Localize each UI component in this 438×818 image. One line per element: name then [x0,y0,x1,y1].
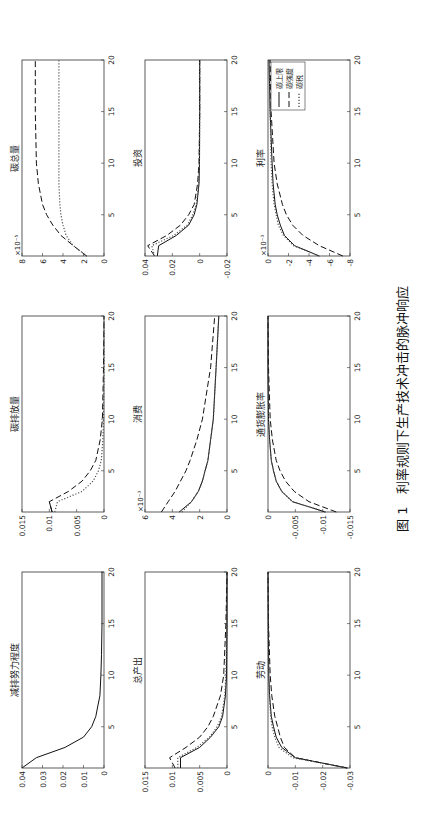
y-tick-label: 0 [264,259,273,264]
series-dotted [178,572,227,768]
x-tick-label: 15 [230,619,239,629]
panel-6: 投资-0.0200.020.045101520 [132,55,239,278]
x-tick-label: 20 [230,567,239,577]
y-tick-label: 6 [141,515,150,520]
plot-frame [145,60,227,256]
x-tick-label: 20 [230,311,239,321]
axis-multiplier: ×10⁻⁵ [14,235,22,256]
x-tick-label: 15 [230,363,239,373]
series-dotted [182,316,219,512]
series-dashed [148,60,200,256]
y-tick-label: -0.02 [223,259,232,279]
series-dashed [170,572,227,768]
y-tick-label: -4 [305,259,314,267]
y-tick-label: 0.005 [73,515,82,537]
plot-frame [22,316,104,512]
x-tick-label: 20 [353,567,362,577]
y-tick-label: 0.02 [168,259,177,276]
panel-1: 减排努力程度00.010.020.030.045101520 [9,567,116,788]
panel-title: 消费 [132,405,143,423]
x-tick-label: 20 [353,311,362,321]
x-tick-label: 10 [107,670,116,680]
y-tick-label: 0 [196,259,205,264]
y-tick-label: 0.03 [39,771,48,788]
y-tick-label: 0.015 [18,515,27,537]
x-tick-label: 5 [353,724,362,729]
panel-7: 劳动-0.03-0.02-0.0105101520 [255,567,362,790]
panel-3: 碳总量024685101520×10⁻⁵ [9,55,116,264]
panel-title: 碳总量 [9,145,20,172]
y-tick-label: 2 [196,515,205,520]
x-tick-label: 10 [353,158,362,168]
x-tick-label: 10 [230,670,239,680]
impulse-response-grid: 减排努力程度00.010.020.030.045101520碳排放量00.005… [0,0,380,818]
y-tick-label: -0.015 [346,515,355,539]
y-tick-label: 0.01 [168,771,177,788]
y-tick-label: 0.015 [141,771,150,793]
y-tick-label: 4 [59,259,68,264]
y-tick-label: 0 [223,515,232,520]
series-dashed [268,316,336,512]
plot-frame [145,316,227,512]
y-tick-label: -0.02 [319,771,328,791]
figure: 减排努力程度00.010.020.030.045101520碳排放量00.005… [0,0,438,818]
panel-title: 投资 [132,149,143,167]
series-dashed [49,316,104,512]
x-tick-label: 10 [230,158,239,168]
y-tick-label: -0.01 [319,515,328,535]
x-tick-label: 20 [353,55,362,65]
x-tick-label: 5 [107,724,116,729]
y-tick-label: 0 [100,515,109,520]
panel-9: 利率-8-6-4-205101520×10⁻³碳上限碳强度碳税 [255,55,362,266]
series-solid [268,316,325,512]
series-solid [22,572,102,768]
panel-title: 减排努力程度 [9,643,20,697]
panel-title: 总产出 [132,657,143,684]
x-tick-label: 20 [107,311,116,321]
y-tick-label: 0.04 [141,259,150,276]
series-dotted [59,60,87,256]
series-solid [181,572,228,768]
legend-label: 碳上限 [275,68,284,89]
caption-label: 图 1 [395,507,410,532]
x-tick-label: 15 [230,107,239,117]
x-tick-label: 10 [107,414,116,424]
y-tick-label: 0.04 [18,771,27,788]
x-tick-label: 5 [230,724,239,729]
series-dotted [268,572,347,768]
legend-label: 碳税 [295,75,304,89]
x-tick-label: 10 [353,414,362,424]
x-tick-label: 20 [230,55,239,65]
series-solid [268,572,347,768]
legend: 碳上限碳强度碳税 [271,62,305,110]
y-tick-label: 0.005 [196,771,205,793]
panel-2: 碳排放量00.0050.010.0155101520 [9,311,116,536]
y-tick-label: 0 [223,771,232,776]
figure-caption: 图 1 利率规则下生产技术冲击的脉冲响应 [392,0,411,818]
plot-frame [22,60,104,256]
panel-title: 利率 [255,149,266,167]
series-dashed [161,316,214,512]
x-tick-label: 15 [107,619,116,629]
y-tick-label: 0 [264,515,273,520]
y-tick-label: 2 [80,259,89,264]
series-dotted [152,60,200,256]
plot-frame [268,316,350,512]
y-tick-label: 0 [100,259,109,264]
x-tick-label: 20 [107,567,116,577]
y-tick-label: 0 [264,771,273,776]
x-tick-label: 5 [230,212,239,217]
x-tick-label: 15 [107,107,116,117]
y-tick-label: 0.01 [45,515,54,532]
legend-label: 碳强度 [285,68,294,89]
panel-4: 总产出00.0050.010.0155101520 [132,567,239,792]
x-tick-label: 5 [353,212,362,217]
series-dashed [35,60,86,256]
y-tick-label: 8 [18,259,27,264]
x-tick-label: 5 [107,468,116,473]
y-tick-label: 6 [39,259,48,264]
x-tick-label: 5 [107,212,116,217]
y-tick-label: 0.02 [59,771,68,788]
x-tick-label: 10 [107,158,116,168]
y-tick-label: 0.01 [80,771,89,788]
